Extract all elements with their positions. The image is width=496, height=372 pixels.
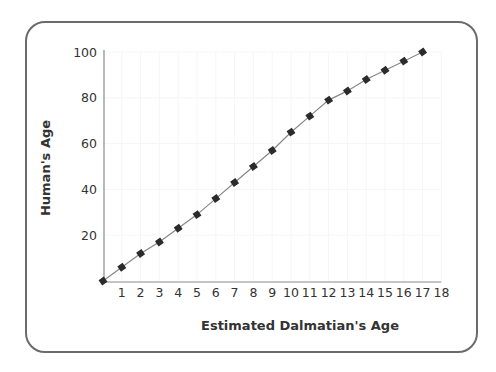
x-tick-label: 12 <box>321 285 337 300</box>
x-tick-label: 11 <box>302 285 318 300</box>
x-tick-label: 3 <box>155 285 163 300</box>
data-point-marker <box>399 57 408 66</box>
data-point-marker <box>343 86 352 95</box>
x-tick-label: 1 <box>118 285 126 300</box>
series-line <box>103 52 423 281</box>
data-point-marker <box>362 75 371 84</box>
x-tick-labels: 123456789101112131415161718 <box>118 285 450 300</box>
x-tick-label: 4 <box>174 285 182 300</box>
data-point-marker <box>418 48 427 57</box>
data-point-marker <box>136 249 145 258</box>
y-tick-label: 20 <box>81 228 97 243</box>
y-tick-label: 60 <box>81 136 97 151</box>
x-tick-label: 18 <box>433 285 449 300</box>
x-tick-label: 8 <box>249 285 257 300</box>
x-tick-label: 7 <box>231 285 239 300</box>
x-tick-label: 6 <box>212 285 220 300</box>
data-point-marker <box>99 277 108 286</box>
y-tick-labels: 20406080100 <box>73 45 97 243</box>
y-tick-label: 80 <box>81 90 97 105</box>
x-tick-label: 9 <box>268 285 276 300</box>
y-tick-label: 40 <box>81 182 97 197</box>
grid-lines <box>103 52 441 281</box>
x-axis-label: Estimated Dalmatian's Age <box>201 318 399 333</box>
data-point-marker <box>117 263 126 272</box>
x-tick-label: 14 <box>358 285 374 300</box>
data-point-marker <box>381 66 390 75</box>
y-axis-label: Human's Age <box>38 120 53 216</box>
line-chart: 20406080100 123456789101112131415161718 <box>0 0 496 372</box>
x-tick-label: 5 <box>193 285 201 300</box>
x-tick-label: 17 <box>415 285 431 300</box>
x-tick-label: 2 <box>137 285 145 300</box>
x-tick-label: 13 <box>339 285 355 300</box>
x-tick-label: 10 <box>283 285 299 300</box>
data-point-marker <box>155 238 164 247</box>
x-tick-label: 16 <box>396 285 412 300</box>
x-tick-label: 15 <box>377 285 393 300</box>
data-point-marker <box>174 224 183 233</box>
y-tick-label: 100 <box>73 45 97 60</box>
